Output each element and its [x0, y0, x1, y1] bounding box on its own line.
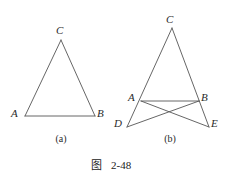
segment-CE [172, 28, 209, 127]
panel-b-vertex-label-D: D [114, 118, 122, 129]
segment-CA [25, 40, 61, 116]
figure-caption-number: 2-48 [111, 159, 131, 171]
segment-BD [127, 101, 199, 127]
figure-caption-label: 图 [91, 159, 102, 171]
figure-container: C A B C A B D E (a) (b) 图2-48 [0, 0, 242, 181]
panel-a-triangle [25, 40, 95, 116]
panel-a-vertex-label-B: B [97, 108, 104, 119]
panel-a-vertex-label-A: A [11, 108, 18, 119]
panel-b-vertex-label-B: B [201, 92, 208, 103]
panel-a-vertex-label-C: C [56, 25, 63, 36]
panel-b-caption: (b) [157, 134, 183, 144]
segment-CD [127, 28, 172, 127]
panel-b-figure [127, 28, 209, 127]
panel-a-caption: (a) [48, 134, 74, 144]
figure-caption: 图2-48 [91, 159, 131, 171]
panel-b-vertex-label-E: E [211, 118, 218, 129]
segment-AE [141, 101, 209, 127]
panel-b-vertex-label-A: A [128, 92, 135, 103]
segment-CB [61, 40, 95, 116]
panel-b-vertex-label-C: C [166, 14, 173, 25]
